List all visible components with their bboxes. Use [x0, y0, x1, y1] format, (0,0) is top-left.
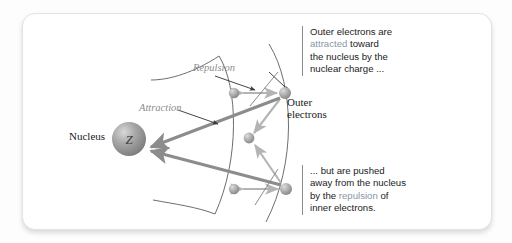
diagram-canvas: Z	[23, 14, 491, 229]
callout-repulsion: ... but are pushed away from the nucleus…	[302, 165, 406, 215]
callout-attraction: Outer electrons are attracted toward the…	[302, 26, 392, 76]
callout-repulsion-line3: by the repulsion of	[310, 190, 406, 202]
repulsion-arrow-diagonal-lower	[255, 145, 281, 183]
nucleus-sphere: Z	[112, 122, 146, 156]
label-outer-electrons-line1: Outer	[287, 96, 327, 108]
callout-repulsion-highlight: repulsion	[339, 190, 378, 201]
electron-inner-middle	[244, 133, 255, 144]
callout-repulsion-line1: ... but are pushed	[310, 165, 406, 177]
callout-attraction-line2: attracted toward	[310, 38, 392, 50]
shell-arc-tail-lower	[153, 200, 215, 214]
callout-attraction-line4: nuclear charge ...	[310, 63, 392, 75]
label-nucleus: Nucleus	[69, 130, 105, 142]
leader-line-attraction	[178, 110, 218, 124]
leader-line-outer-electron	[269, 72, 288, 90]
atom-force-diagram: Z Attraction	[23, 14, 491, 229]
page-root: Z Attraction	[0, 0, 512, 243]
callout-repulsion-line3-pre: by the	[310, 190, 339, 201]
callout-repulsion-line4: inner electrons.	[310, 202, 406, 214]
electron-outer-lower	[280, 183, 292, 195]
callout-attraction-line3: the nucleus by the	[310, 51, 392, 63]
callout-leader-bottom	[255, 169, 278, 205]
callout-repulsion-line3-post: of	[378, 190, 389, 201]
figure-card: Z Attraction	[22, 13, 492, 230]
electron-inner-lower	[229, 184, 239, 194]
label-outer-electrons-line2: electrons	[287, 108, 327, 120]
callout-repulsion-line2: away from the nucleus	[310, 177, 406, 189]
callout-attraction-line1: Outer electrons are	[310, 26, 392, 38]
label-outer-electrons: Outer electrons	[287, 96, 327, 121]
callout-attraction-line2-rest: toward	[347, 38, 378, 49]
outer-shell-arc	[266, 44, 289, 222]
nucleus-charge-symbol: Z	[125, 132, 133, 147]
callout-attraction-highlight: attracted	[310, 38, 347, 49]
label-repulsion: Repulsion	[193, 62, 235, 74]
label-attraction: Attraction	[139, 102, 182, 114]
electron-inner-upper	[229, 88, 239, 98]
